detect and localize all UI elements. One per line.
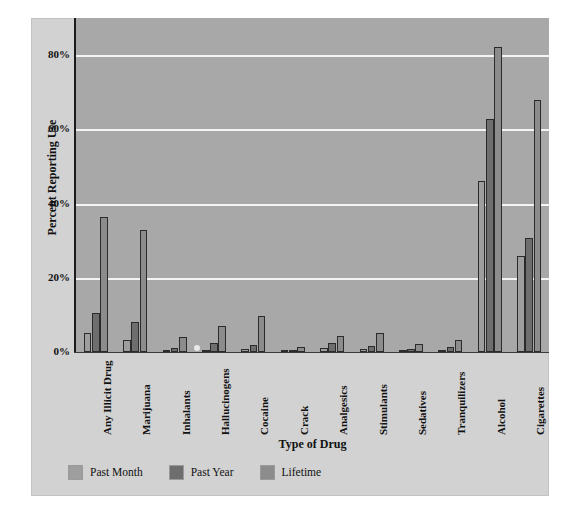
x-tick-label: Cocaine: [258, 397, 270, 435]
legend-label: Past Month: [90, 466, 143, 478]
legend-item: Past Year: [169, 465, 234, 480]
bar: [415, 344, 423, 352]
x-axis-title: Type of Drug: [76, 437, 549, 452]
bar: [171, 348, 179, 352]
bar: [258, 316, 266, 352]
bar: [337, 336, 345, 352]
bar: [376, 333, 384, 352]
x-axis-line: [74, 352, 549, 353]
bar-group: [313, 18, 352, 352]
bar-group: [431, 18, 470, 352]
bar: [250, 345, 258, 352]
x-tick-label: Marijuana: [140, 384, 152, 435]
bar: [281, 350, 289, 352]
bar: [123, 340, 131, 352]
scan-speck: [194, 345, 200, 351]
x-tick-label: Alcohol: [495, 399, 507, 435]
x-tick-label: Analgesics: [337, 386, 349, 436]
legend-label: Past Year: [191, 466, 234, 478]
legend-label: Lifetime: [282, 466, 322, 478]
bar: [320, 348, 328, 352]
bar: [438, 350, 446, 352]
legend-item: Lifetime: [260, 465, 322, 480]
y-axis-title-wrap: Percent Reporting Use: [22, 20, 42, 340]
x-tick-label: Sedatives: [416, 391, 428, 435]
bar: [92, 313, 100, 352]
chart-legend: Past MonthPast YearLifetime: [68, 463, 347, 481]
bar-group: [391, 18, 430, 352]
bar: [131, 322, 139, 352]
bar: [360, 349, 368, 352]
bar: [399, 350, 407, 352]
x-tick-label: Any Illicit Drug: [101, 360, 113, 435]
x-tick-label: Inhalants: [180, 390, 192, 435]
bar: [241, 349, 249, 352]
bar-group: [115, 18, 154, 352]
bar-group: [76, 18, 115, 352]
bar: [179, 337, 187, 352]
bar: [163, 350, 171, 352]
bar-group: [155, 18, 194, 352]
legend-swatch: [68, 465, 83, 480]
bar-group: [273, 18, 312, 352]
bar-group: [234, 18, 273, 352]
x-tick-label: Cigarettes: [534, 387, 546, 435]
x-tick-label: Stimulants: [377, 384, 389, 435]
bars-layer: [76, 18, 549, 352]
x-tick-label: Hallucinogens: [219, 368, 231, 435]
bar: [525, 238, 533, 352]
bar: [407, 349, 415, 352]
bar: [494, 47, 502, 352]
bar: [202, 350, 210, 352]
bar-group: [470, 18, 509, 352]
bar-group: [352, 18, 391, 352]
bar: [455, 340, 463, 352]
bar: [289, 350, 297, 352]
bar: [100, 217, 108, 352]
bar: [486, 119, 494, 352]
bar: [218, 326, 226, 352]
bar: [140, 230, 148, 352]
bar: [210, 343, 218, 352]
bar: [328, 343, 336, 352]
bar-group: [194, 18, 233, 352]
legend-item: Past Month: [68, 465, 143, 480]
legend-swatch: [260, 465, 275, 480]
bar: [84, 333, 92, 352]
legend-swatch: [169, 465, 184, 480]
x-tick-label: Crack: [298, 406, 310, 435]
bar: [478, 181, 486, 352]
y-tick-label: 0%: [34, 346, 70, 357]
bar: [517, 256, 525, 352]
x-tick-label: Tranquilizers: [455, 372, 467, 435]
bar: [534, 100, 542, 352]
bar: [368, 346, 376, 352]
bar: [297, 347, 305, 352]
x-axis-tick-labels: Any Illicit DrugMarijuanaInhalantsHalluc…: [76, 357, 549, 437]
bar: [447, 347, 455, 352]
bar-group: [510, 18, 549, 352]
y-axis-title: Percent Reporting Use: [45, 88, 60, 268]
chart-figure: 0%20%40%60%80% Percent Reporting Use Any…: [0, 0, 571, 510]
